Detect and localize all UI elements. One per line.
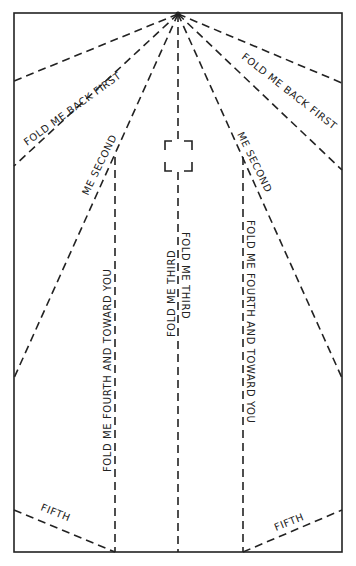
cutout-square-marker bbox=[165, 141, 192, 171]
label-back-first-right: FOLD ME BACK FIRST bbox=[240, 51, 339, 132]
fold-line-first-right-inner bbox=[178, 14, 342, 170]
label-fourth-left: FOLD ME FOURTH AND TOWARD YOU bbox=[102, 268, 113, 472]
folding-diagram: FOLD ME BACK FIRST FOLD ME BACK FIRST ME… bbox=[0, 0, 356, 566]
label-third-right: FOLD ME THIRD bbox=[180, 232, 191, 319]
label-fifth-left: FIFTH bbox=[39, 502, 72, 524]
apex-point bbox=[176, 12, 181, 17]
label-fifth-right: FIFTH bbox=[273, 511, 306, 533]
label-second-left: ME SECOND bbox=[80, 133, 119, 197]
label-third-left: FOLD ME THIRD bbox=[166, 250, 177, 337]
fold-line-second-left bbox=[14, 14, 178, 378]
fold-line-first-left-outer bbox=[14, 14, 178, 81]
label-fourth-right: FOLD ME FOURTH AND TOWARD YOU bbox=[245, 220, 256, 424]
